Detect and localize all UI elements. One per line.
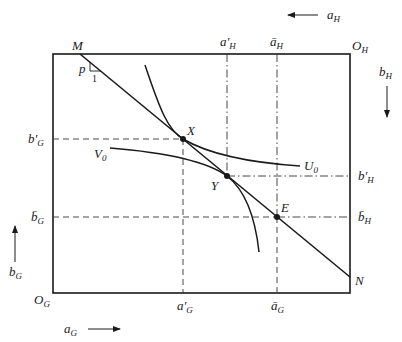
label-e: E	[280, 200, 289, 215]
edgeworth-box-diagram: M N p 1 X Y E V0 U0 OG OH aH bH bG aG a′…	[0, 0, 402, 342]
label-b-bar-h: b̄H	[358, 209, 372, 226]
label-p: p	[78, 61, 86, 76]
label-x: X	[186, 123, 196, 138]
label-y: Y	[211, 178, 220, 193]
point-e-marker	[274, 214, 280, 220]
label-a-bar-g: āG	[271, 298, 285, 315]
guide-lines	[53, 54, 350, 293]
label-slope-one: 1	[92, 73, 97, 84]
label-b-prime-h: b′H	[358, 168, 374, 185]
label-origin-h: OH	[352, 38, 368, 55]
label-a-prime-h: a′H	[220, 34, 236, 51]
label-m: M	[71, 38, 84, 53]
label-a-bar-h: āH	[270, 34, 284, 51]
label-a-prime-g: a′G	[177, 298, 193, 315]
box-frame	[53, 54, 350, 293]
indifference-curve-v0	[110, 148, 259, 252]
label-origin-g: OG	[34, 292, 50, 309]
label-b-h: bH	[379, 64, 393, 81]
label-n: N	[354, 273, 365, 288]
label-u0: U0	[304, 158, 318, 175]
label-b-bar-g: b̄G	[31, 209, 45, 226]
label-b-g: bG	[9, 264, 23, 281]
label-b-prime-g: b′G	[28, 131, 44, 148]
label-a-h: aH	[327, 7, 341, 24]
label-a-g: aG	[64, 321, 78, 338]
point-x-marker	[180, 136, 186, 142]
label-v0: V0	[94, 146, 107, 163]
point-y-marker	[224, 173, 230, 179]
